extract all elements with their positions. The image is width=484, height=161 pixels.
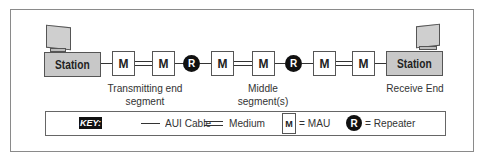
repeater-2: R (285, 55, 302, 72)
mau-label: M (359, 57, 369, 71)
mau-1: M (112, 51, 135, 76)
monitor-icon (416, 24, 440, 49)
repeater-1: R (183, 55, 200, 72)
mau-label: M (285, 119, 293, 129)
middle-segment-label: Middle segment(s) (228, 82, 298, 108)
mau-label: M (159, 57, 169, 71)
mau-3: M (211, 51, 234, 76)
repeater-label: R (350, 118, 357, 129)
aui-cable (275, 63, 285, 64)
legend-mau-symbol: M (282, 113, 296, 134)
legend-repeater-symbol: R (346, 115, 362, 131)
station-transmit: Station (44, 52, 101, 77)
monitor-icon (46, 25, 71, 51)
legend-mau-label: = MAU (299, 116, 330, 130)
aui-cable (101, 63, 112, 64)
repeater-label: R (290, 58, 297, 69)
legend-medium-line (204, 121, 223, 126)
key-badge: KEY: (79, 117, 102, 129)
medium-cable (135, 61, 152, 66)
station-label: Station (397, 57, 432, 71)
station-label: Station (55, 58, 90, 72)
mau-label: M (119, 57, 129, 71)
aui-cable (200, 63, 211, 64)
mau-label: M (320, 57, 330, 71)
mau-4: M (252, 51, 275, 76)
station-receive: Station (386, 51, 443, 76)
mau-2: M (152, 51, 175, 76)
legend-aui-line (141, 123, 160, 124)
label-line: Middle (228, 82, 298, 95)
monitor-stand-icon (419, 46, 437, 50)
receive-end-label: Receive End (379, 82, 451, 95)
mau-5: M (313, 51, 336, 76)
label-line: segment (101, 95, 189, 108)
medium-cable (336, 61, 352, 66)
label-line: Transmitting end (101, 82, 189, 95)
label-line: segment(s) (228, 95, 298, 108)
transmitting-segment-label: Transmitting end segment (101, 82, 189, 108)
mau-label: M (259, 57, 269, 71)
aui-cable (375, 63, 386, 64)
legend-repeater-label: = Repeater (365, 116, 415, 130)
legend-medium-label: Medium (229, 116, 265, 130)
repeater-label: R (188, 58, 195, 69)
mau-6: M (352, 51, 375, 76)
aui-cable (302, 63, 313, 64)
mau-label: M (218, 57, 228, 71)
label-line: Receive End (379, 82, 451, 95)
medium-cable (234, 61, 252, 66)
